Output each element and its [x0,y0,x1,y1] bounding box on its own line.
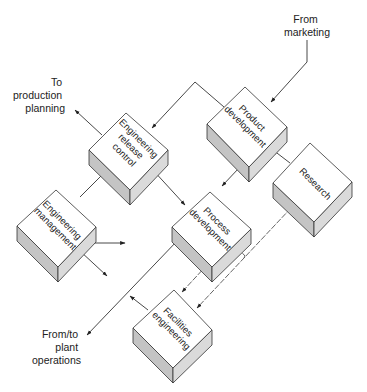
arrow-marketing-to-product [271,40,307,102]
label-from-marketing: From marketing [284,13,330,38]
arrow-product-to-process [222,168,239,186]
arrow-facilities-to-plant-line [130,296,148,310]
node-product-development[interactable]: Product development [207,87,287,182]
connectors [75,40,307,335]
label-from-to-plant-operations: From/to plant operations [32,328,81,366]
node-process-development[interactable]: Process development [172,192,251,282]
arrow-erc-to-production [75,110,102,135]
node-engineering-management[interactable]: Engineering management [17,190,96,282]
node-research[interactable]: Research [273,143,352,237]
node-engineering-release-control[interactable]: Engineering release control [89,113,168,205]
node-facilities-engineering[interactable]: Facilities engineering [133,290,212,383]
label-to-production-planning: To production planning [13,76,65,114]
organization-flow-diagram: Product development Engineering release … [0,0,367,392]
